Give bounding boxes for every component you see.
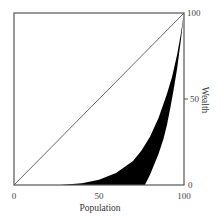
x-tick-50: 50: [95, 191, 105, 201]
x-tick-0: 0: [12, 191, 17, 201]
y-tick-0: 0: [188, 180, 193, 190]
inequality-band: [60, 13, 184, 185]
equality-line: [14, 13, 184, 185]
y-axis-label: Wealth: [200, 87, 210, 114]
lorenz-chart: 0 50 100 0 50 100 Population Wealth: [0, 0, 221, 220]
x-tick-100: 100: [177, 191, 191, 201]
y-tick-100: 100: [187, 8, 201, 18]
x-axis-label: Population: [79, 203, 120, 213]
y-tick-50: 50: [190, 94, 200, 104]
